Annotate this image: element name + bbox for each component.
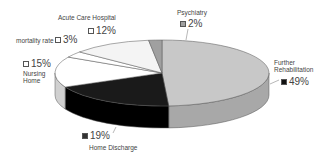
- swatch-acute-care: [88, 28, 94, 34]
- pct-further-rehab: 49%: [281, 76, 309, 87]
- pct-nursing-home: 15%: [23, 58, 51, 69]
- swatch-mortality: [55, 37, 61, 43]
- label-home-discharge: Home Discharge: [89, 144, 137, 151]
- swatch-home-discharge: [82, 133, 88, 139]
- pie-chart: [0, 0, 326, 155]
- label-mortality: mortality rate: [16, 37, 54, 44]
- swatch-psychiatry: [180, 21, 186, 27]
- label-nursing-home: Nursing Home: [23, 70, 45, 85]
- pct-psychiatry: 2%: [180, 18, 202, 29]
- pct-acute-care: 12%: [88, 25, 116, 36]
- swatch-further-rehab: [281, 79, 287, 85]
- pct-home-discharge: 19%: [82, 130, 110, 141]
- swatch-nursing-home: [23, 61, 29, 67]
- label-acute-care: Acute Care Hospital: [58, 14, 116, 21]
- label-further-rehab: Further Rehabilitation: [274, 59, 313, 74]
- label-psychiatry: Psychiatry: [177, 9, 207, 16]
- pct-mortality: 3%: [55, 34, 77, 45]
